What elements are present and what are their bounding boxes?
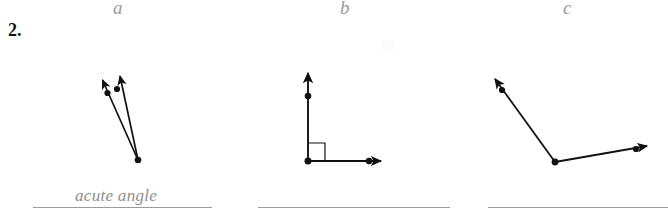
part-label-a: a <box>113 0 123 19</box>
figure-obtuse-angle <box>495 79 647 165</box>
figure-right-angle <box>305 73 382 165</box>
right-ray-horizontal-point <box>366 158 373 165</box>
part-label-c: c <box>563 0 571 19</box>
acute-ray-left <box>103 80 139 160</box>
figure-acute-angle <box>103 76 142 163</box>
right-angle-square-marker <box>308 143 325 161</box>
answer-line-a[interactable] <box>33 207 212 208</box>
right-ray-vertical-point <box>305 93 312 100</box>
obtuse-vertex-point <box>552 159 559 166</box>
obtuse-ray-upper-left <box>495 79 555 162</box>
acute-vertex-point <box>135 157 142 164</box>
acute-ray-right <box>120 76 138 160</box>
obtuse-ray-right <box>555 146 647 162</box>
acute-ray-left-point <box>104 90 110 96</box>
part-label-b: b <box>340 0 350 19</box>
acute-ray-right-point <box>114 86 120 92</box>
answer-line-c[interactable] <box>488 207 668 208</box>
obtuse-ray-upper-left-point <box>499 87 505 93</box>
answer-text-a[interactable]: acute angle <box>75 186 157 206</box>
obtuse-ray-right-point <box>633 146 639 152</box>
paper-smudge <box>382 40 394 51</box>
worksheet-page: 2. a b c <box>0 0 668 221</box>
problem-number: 2. <box>8 20 22 41</box>
right-vertex-point <box>305 158 312 165</box>
answer-line-b[interactable] <box>258 207 450 208</box>
